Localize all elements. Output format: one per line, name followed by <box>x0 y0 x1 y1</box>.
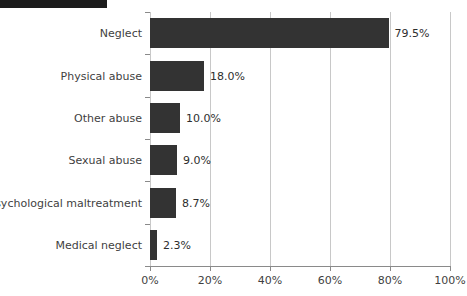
bar-value-label: 9.0% <box>183 154 211 167</box>
bar-value-label: 8.7% <box>182 196 210 209</box>
x-axis-tick <box>390 266 391 271</box>
bar-value-label: 79.5% <box>395 27 430 40</box>
x-axis-tick-label: 80% <box>368 274 412 287</box>
category-label: Psychological maltreatment <box>0 196 142 209</box>
x-axis-tick-label: 60% <box>308 274 352 287</box>
x-axis-tick <box>270 266 271 271</box>
bar-row: 8.7% <box>150 188 450 218</box>
bar <box>150 18 389 48</box>
bar-row: 2.3% <box>150 230 450 260</box>
bar <box>150 103 180 133</box>
category-label: Medical neglect <box>55 238 142 251</box>
gridline <box>450 12 451 266</box>
plot-area: 79.5%18.0%10.0%9.0%8.7%2.3% <box>150 12 450 266</box>
x-axis-tick-label: 0% <box>128 274 172 287</box>
x-axis-tick-label: 100% <box>428 274 467 287</box>
x-axis-tick-label: 40% <box>248 274 292 287</box>
bar-row: 10.0% <box>150 103 450 133</box>
x-axis-tick <box>210 266 211 271</box>
bar-row: 9.0% <box>150 145 450 175</box>
bar-value-label: 18.0% <box>210 69 245 82</box>
bar-row: 79.5% <box>150 18 450 48</box>
x-axis-tick <box>150 266 151 271</box>
y-axis-tick <box>145 266 150 267</box>
bar-chart-figure: 0%20%40%60%80%100% 79.5%18.0%10.0%9.0%8.… <box>0 0 467 296</box>
bar-row: 18.0% <box>150 61 450 91</box>
category-label: Neglect <box>100 27 142 40</box>
x-axis-tick <box>330 266 331 271</box>
bar <box>150 145 177 175</box>
category-label: Sexual abuse <box>68 154 142 167</box>
bar-value-label: 10.0% <box>186 111 221 124</box>
bar <box>150 61 204 91</box>
header-strip <box>0 0 107 8</box>
bar <box>150 188 176 218</box>
x-axis-tick-label: 20% <box>188 274 232 287</box>
x-axis-tick <box>450 266 451 271</box>
x-axis-line <box>150 266 451 267</box>
bar-value-label: 2.3% <box>163 238 191 251</box>
category-label: Other abuse <box>74 111 142 124</box>
bar <box>150 230 157 260</box>
category-label: Physical abuse <box>61 69 142 82</box>
